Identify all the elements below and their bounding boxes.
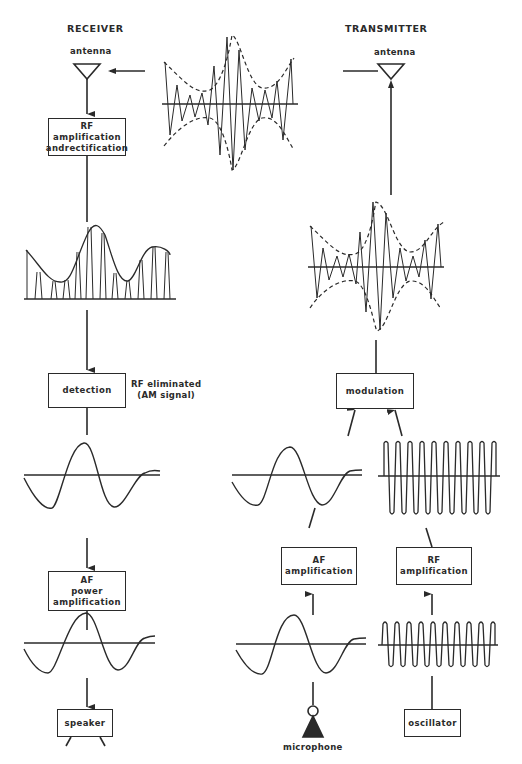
modulated-wave (308, 202, 444, 331)
carrier-wave-1 (378, 442, 500, 515)
microphone-label: microphone (283, 742, 343, 752)
transmitter-rf-amplification-box: RF amplification (396, 547, 472, 585)
transmitter-heading: TRANSMITTER (345, 23, 428, 34)
rf-amplification-rectification-box: RF amplification andrectification (48, 118, 126, 156)
receiver-antenna-icon (74, 64, 100, 79)
oscillator-box: oscillator (404, 709, 461, 737)
microphone-icon (303, 716, 323, 737)
receiver-antenna-label: antenna (70, 46, 112, 56)
receiver-heading: RECEIVER (67, 23, 124, 34)
modulation-box: modulation (336, 373, 414, 409)
receiver-audio-wave-1 (24, 443, 160, 508)
af-power-amplification-box: AF power amplification (48, 571, 126, 611)
detection-box: detection (48, 373, 126, 408)
transmitter-antenna-label: antenna (374, 47, 416, 57)
speaker-box: speaker (57, 709, 113, 737)
transmitter-audio-wave-1 (232, 447, 362, 505)
transmitter-audio-wave-2 (236, 615, 366, 674)
carrier-wave-2 (378, 622, 498, 667)
transmitter-af-amplification-box: AF amplification (281, 547, 357, 585)
detection-note: RF eliminated (AM signal) (131, 379, 201, 401)
rectified-wave (24, 225, 176, 299)
transmitter-antenna-icon (378, 64, 404, 79)
transmitted-am-wave (162, 35, 298, 170)
receiver-audio-wave-2 (24, 613, 155, 673)
